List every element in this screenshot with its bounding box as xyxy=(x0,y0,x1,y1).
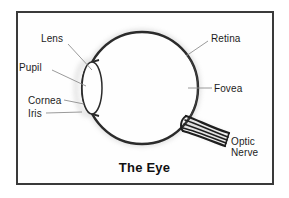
leader-line-retina xyxy=(186,41,208,56)
label-iris: Iris xyxy=(28,108,42,119)
label-lens: Lens xyxy=(41,33,63,44)
eye-diagram-figure: Lens Pupil Cornea Iris Retina Fovea Opti… xyxy=(0,0,289,198)
label-cornea: Cornea xyxy=(28,95,61,106)
leader-line-cornea xyxy=(64,100,84,104)
label-retina: Retina xyxy=(211,33,241,44)
label-optic-nerve-line1: Optic xyxy=(231,136,255,147)
optic-nerve-bundle xyxy=(181,116,229,146)
leader-line-pupil xyxy=(52,70,86,86)
label-fovea: Fovea xyxy=(214,83,242,94)
leader-line-iris xyxy=(46,112,82,113)
label-optic-nerve: OpticNerve xyxy=(231,136,258,158)
label-optic-nerve-line2: Nerve xyxy=(231,147,258,158)
label-pupil: Pupil xyxy=(19,62,42,73)
figure-title: The Eye xyxy=(0,160,289,175)
